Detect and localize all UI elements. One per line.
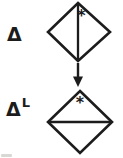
arrow-head — [73, 77, 83, 88]
delta-l-superscript: L — [22, 93, 30, 112]
asterisk-marker-top: * — [77, 6, 86, 25]
asterisk-marker-bottom: * — [76, 93, 85, 112]
figure-canvas: Δ * ΔL * — [0, 0, 123, 158]
scan-artifact — [1, 154, 12, 157]
delta-l-base: Δ — [6, 98, 21, 120]
delta-label: Δ — [7, 25, 22, 44]
bottom-diamond: * — [46, 88, 114, 156]
arrow-down-icon — [70, 61, 87, 88]
delta-l-label: ΔL — [6, 100, 30, 121]
top-diamond: * — [46, 0, 114, 66]
